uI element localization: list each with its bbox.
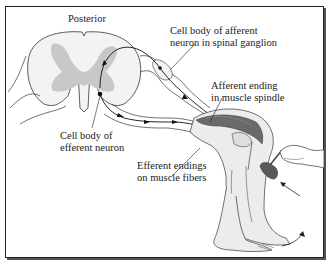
hand	[280, 145, 324, 168]
label-efferent-cell-body-1: Cell body of	[60, 130, 113, 142]
label-afferent-ending-1: Afferent ending	[211, 80, 278, 92]
label-afferent-cell-body-2: neuron in spinal ganglion	[170, 37, 277, 49]
label-efferent-endings-2: on muscle fibers	[137, 172, 206, 184]
label-afferent-ending-2: in muscle spindle	[211, 92, 285, 104]
label-afferent-cell-body-1: Cell body of afferent	[170, 25, 258, 37]
label-posterior: Posterior	[68, 13, 106, 25]
label-efferent-cell-body-2: efferent neuron	[60, 142, 124, 154]
reflex-arc-diagram	[0, 0, 330, 263]
strike-arrow	[280, 182, 300, 196]
spinal-cord-cross-section	[8, 32, 141, 124]
label-efferent-endings-1: Efferent endings	[137, 160, 207, 172]
